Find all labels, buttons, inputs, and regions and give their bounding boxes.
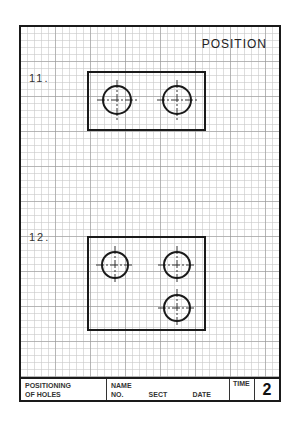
plate-outline-1: [88, 72, 205, 130]
drawings: [0, 0, 296, 421]
